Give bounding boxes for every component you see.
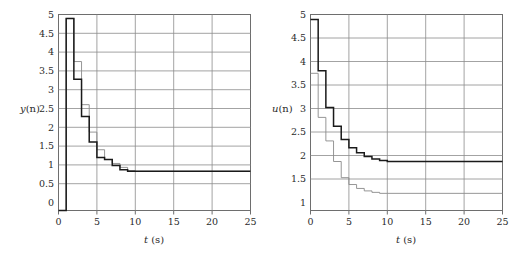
y-tick-label: 1: [48, 159, 54, 170]
y-tick-label: 2: [300, 150, 306, 161]
x-tick-label: 0: [55, 216, 61, 227]
y-tick-label: 5: [48, 9, 54, 20]
y-tick-label: 4: [48, 46, 54, 57]
x-tick-label: 5: [346, 216, 352, 227]
x-tick-label: 20: [206, 216, 218, 227]
x-tick-label: 20: [458, 216, 470, 227]
y-tick-label: 3: [48, 84, 54, 95]
chart-output-response: 5 4.5 4 3.5 3 2.5 2 1.5 1 0.5 0 y(n): [0, 0, 264, 253]
x-tick-label: 15: [420, 216, 432, 227]
plot-frame: [311, 15, 503, 211]
panel-output-response: 5 4.5 4 3.5 3 2.5 2 1.5 1 0.5 0 y(n): [0, 0, 264, 253]
y-tick-label: 4: [300, 56, 306, 67]
x-tick-label: 15: [168, 216, 180, 227]
x-tick-labels: 0 5 10 15 20 25: [55, 216, 256, 227]
y-tick-label: 1.5: [39, 140, 54, 151]
x-tick-marks: [59, 211, 251, 215]
y-axis-title-arg: (n): [278, 103, 292, 114]
y-tick-label: 2: [48, 122, 54, 133]
y-tick-label: 2.5: [291, 126, 306, 137]
y-tick-label: 4.5: [291, 32, 306, 43]
y-tick-label: 3.5: [39, 65, 54, 76]
y-tick-labels: 5 4.5 4 3.5 3 2.5 2 1.5 1: [291, 9, 306, 208]
y-tick-labels: 5 4.5 4 3.5 3 2.5 2 1.5 1 0.5 0: [39, 9, 54, 208]
y-axis-title: u(n): [272, 103, 293, 114]
y-tick-label: 1: [300, 197, 306, 208]
x-tick-label: 10: [129, 216, 141, 227]
y-axis-title: y(n): [19, 103, 40, 114]
y-tick-label: 5: [300, 9, 306, 20]
y-tick-label: 0: [48, 197, 54, 208]
y-tick-label: 2.5: [39, 103, 54, 114]
y-tick-label: 1.5: [291, 173, 306, 184]
figure-two-panel-step-response: 5 4.5 4 3.5 3 2.5 2 1.5 1 0.5 0 y(n): [0, 0, 528, 253]
x-axis-title: t (s): [396, 234, 416, 245]
x-tick-label: 5: [94, 216, 100, 227]
x-tick-label: 25: [496, 216, 508, 227]
chart-control-signal: 5 4.5 4 3.5 3 2.5 2 1.5 1 u(n): [264, 0, 528, 253]
plot-frame: [59, 15, 251, 211]
y-axis-title-arg: (n): [26, 103, 40, 114]
x-tick-label: 25: [244, 216, 256, 227]
x-tick-labels: 0 5 10 15 20 25: [307, 216, 508, 227]
panel-control-signal: 5 4.5 4 3.5 3 2.5 2 1.5 1 u(n): [264, 0, 528, 253]
y-tick-label: 3.5: [291, 79, 306, 90]
y-tick-label: 4.5: [39, 28, 54, 39]
x-tick-label: 0: [307, 216, 313, 227]
y-tick-label: 0.5: [39, 178, 54, 189]
x-tick-marks: [311, 211, 503, 215]
x-axis-title-unit: (s): [151, 234, 164, 245]
x-tick-label: 10: [381, 216, 393, 227]
x-axis-title: t (s): [144, 234, 164, 245]
x-axis-title-unit: (s): [403, 234, 416, 245]
y-tick-label: 3: [300, 103, 306, 114]
